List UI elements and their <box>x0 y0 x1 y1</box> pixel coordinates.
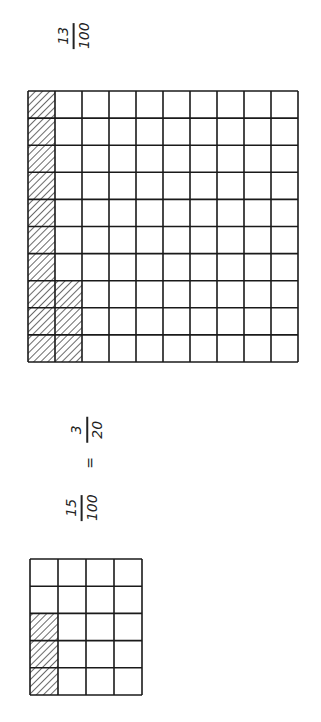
numerator: 15 <box>64 499 79 517</box>
denominator: 100 <box>76 22 91 49</box>
shaded-cell <box>30 613 58 640</box>
shaded-cell <box>28 199 55 226</box>
denominator: 100 <box>84 494 99 521</box>
denominator: 20 <box>90 421 105 439</box>
shaded-cell <box>28 254 55 281</box>
shaded-cell <box>28 91 55 118</box>
numerator: 13 <box>56 27 71 45</box>
shaded-cell <box>28 281 55 308</box>
shaded-cell <box>30 641 58 668</box>
shaded-cell <box>30 668 58 695</box>
shaded-cell <box>28 118 55 145</box>
shaded-cell <box>28 145 55 172</box>
numerator: 3 <box>69 425 84 434</box>
twenty-grid <box>30 559 142 695</box>
shaded-cell <box>55 281 82 308</box>
fraction-bar <box>86 417 88 443</box>
fraction-bar <box>73 23 75 49</box>
shaded-cell <box>55 308 82 335</box>
fraction-13-100: 13 100 <box>56 22 92 49</box>
shaded-cell <box>28 227 55 254</box>
shaded-cell <box>28 335 55 362</box>
shaded-cell <box>28 308 55 335</box>
hundred-grid <box>28 91 298 362</box>
shaded-cell <box>28 172 55 199</box>
fraction-3-20: 3 20 <box>69 417 105 443</box>
fraction-bar <box>81 495 83 521</box>
equals-sign: = <box>82 457 98 469</box>
shaded-cell <box>55 335 82 362</box>
fraction-15-100: 15 100 <box>64 494 100 521</box>
